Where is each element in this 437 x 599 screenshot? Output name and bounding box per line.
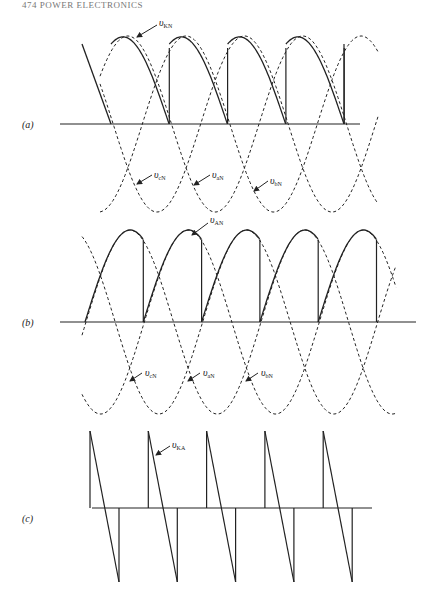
vka-label: υKA <box>172 439 186 451</box>
van-segment-4 <box>318 230 376 322</box>
van-main-arrow <box>192 223 208 235</box>
panel-b <box>60 230 416 414</box>
van-segment-1 <box>143 230 201 322</box>
van-segment-3 <box>260 230 318 322</box>
panel-a-label: (a) <box>22 119 34 131</box>
vka-ramp-4 <box>323 431 352 582</box>
vbn-arrow-a <box>254 181 268 191</box>
van-segment-2 <box>202 230 260 322</box>
vka-ramp-2 <box>207 431 236 582</box>
vkn-arrow <box>137 25 157 37</box>
vcn-arrow-b <box>130 373 142 381</box>
vka-ramp-0 <box>90 431 119 582</box>
waveform-diagram: (a) (b) (c) υKN υcN υaN υbN υAN υcN υaN … <box>0 0 437 599</box>
vbn-label-b: υbN <box>261 367 274 379</box>
van-arrow-b <box>188 373 200 381</box>
vbn-label-a: υbN <box>270 175 283 187</box>
vcn-label-b: υcN <box>145 367 157 379</box>
vkn-segment-1 <box>169 37 227 124</box>
vka-ramp-1 <box>148 431 177 582</box>
panel-b-label: (b) <box>22 317 34 329</box>
van-label-a: υaN <box>212 169 224 181</box>
van-segment-0 <box>85 230 143 322</box>
panel-c <box>90 431 372 582</box>
vkn-segment-0 <box>111 37 169 124</box>
vbn-arrow-b <box>246 373 258 381</box>
panel-c-label: (c) <box>22 513 34 525</box>
vka-arrow <box>156 446 170 455</box>
van-label-b: υaN <box>203 367 215 379</box>
vkn-segment-2 <box>228 37 286 124</box>
vkn-segment-3 <box>286 37 344 124</box>
van-main-label: υAN <box>210 214 224 226</box>
van-arrow-a <box>194 175 210 185</box>
vka-ramp-3 <box>265 431 294 582</box>
vcn-arrow-a <box>137 175 152 184</box>
vkn-lead <box>82 44 111 124</box>
vcn-label-a: υcN <box>154 169 166 181</box>
vkn-label: υKN <box>159 17 173 29</box>
panel-a <box>60 36 378 212</box>
